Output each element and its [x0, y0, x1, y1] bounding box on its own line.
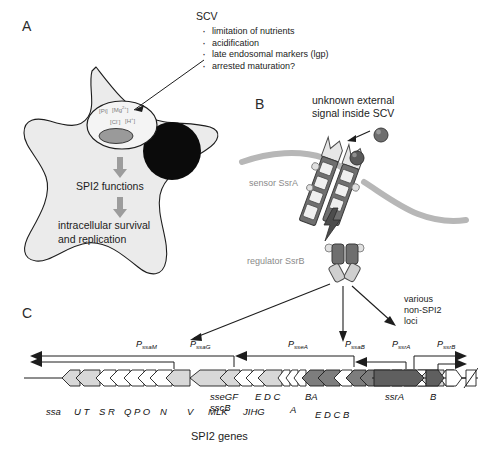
gene-label-EDC: E D C — [255, 391, 280, 402]
ion-label-h: [H+] — [125, 116, 135, 124]
gene-label-ssrB: B — [430, 391, 436, 402]
gene-label-ssa: ssa — [46, 406, 61, 417]
scv-bullet-item: limitation of nutrients — [200, 26, 329, 38]
promoter-subscript: ssrA — [398, 343, 410, 350]
outcome-line-1: intracellular survival — [58, 219, 150, 231]
promoter-label-sseA: PsseA — [288, 339, 308, 349]
promoter-label-ssaB: PssaB — [345, 339, 365, 349]
promoter-label-ssrA: PssrA — [392, 339, 410, 349]
scv-title: SCV — [196, 10, 218, 22]
scv-pointer-line — [128, 58, 206, 116]
gene-label-sseGF: sseGF — [210, 391, 238, 402]
gene-label-BA: BA — [305, 391, 318, 402]
gene-label-V: V — [187, 406, 193, 417]
various-loci-line-1: various — [404, 294, 433, 305]
gene-label-UT: U T — [74, 406, 89, 417]
gene-label-A: A — [290, 404, 296, 415]
signal-label-line-2: signal inside SCV — [312, 107, 394, 120]
promoter-subscript: ssaB — [351, 343, 365, 350]
figure-spi2-regulation: A SCV limitation of nutrients acidificat… — [0, 0, 478, 463]
signal-label-line-1: unknown external — [312, 94, 394, 107]
panel-c-letter: C — [22, 305, 33, 321]
promoter-subscript: ssaM — [142, 343, 157, 350]
panel-a-letter: A — [22, 18, 32, 34]
gene-label-EDCB: E D C B — [315, 409, 349, 420]
ion-h-close: ] — [133, 118, 135, 124]
sensor-ssra-label: sensor SsrA — [249, 178, 298, 188]
promoter-subscript: ssrB — [443, 343, 455, 350]
gene-label-N: N — [160, 406, 167, 417]
ion-cl-close: ] — [119, 119, 121, 125]
arrow-to-outcome — [112, 197, 128, 219]
promoter-subscript: ssaG — [196, 343, 210, 350]
phosphotransfer-bolt-icon — [322, 208, 342, 242]
various-loci-line-3: loci — [404, 316, 418, 327]
regulator-ssrb-label: regulator SsrB — [247, 256, 305, 266]
gene-label-sscB: sscB — [210, 402, 231, 413]
ion-label-pi: [Pi] — [99, 108, 108, 114]
gene-label-SR: S R — [99, 406, 115, 417]
promoter-label-ssaM: PssaM — [136, 339, 157, 349]
gene-label-QPO: Q P O — [124, 406, 150, 417]
promoter-label-ssaG: PssaG — [190, 339, 210, 349]
ion-mg-text: [Mg — [112, 107, 122, 113]
scv-bullet-item: acidification — [200, 38, 329, 50]
ssrab-gene-block — [372, 366, 478, 390]
arrow-to-functions — [112, 157, 128, 179]
outcome-line-2: and replication — [58, 233, 126, 245]
promoter-label-ssrB: PssrB — [437, 339, 455, 349]
signal-molecule-bound — [347, 148, 367, 168]
promoter-subscript: sseA — [294, 343, 308, 350]
ion-label-mg: [Mg2+] — [112, 105, 128, 113]
spi2-genes-caption: SPI2 genes — [191, 430, 248, 442]
gene-label-ssrA: ssrA — [385, 391, 404, 402]
spi2-functions-label: SPI2 functions — [76, 180, 144, 192]
ion-label-cl: [Cl-] — [110, 117, 120, 125]
gene-label-JIHG: JIHG — [243, 406, 265, 417]
regulator-ssrb-protein — [315, 240, 375, 284]
various-loci-line-2: non-SPI2 — [404, 305, 442, 316]
panel-b-letter: B — [255, 96, 265, 112]
